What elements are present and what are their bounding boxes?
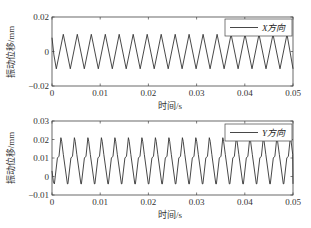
top-x-tick-label: 0.04 [237, 88, 253, 98]
bottom-y-tick-label: −0.01 [28, 190, 49, 200]
bottom-x-tick-label: 0.05 [285, 197, 301, 207]
bottom-x-tick-label: 0.04 [237, 197, 253, 207]
bottom-y-tick-label: 0.01 [33, 153, 49, 163]
bottom-series-line [52, 138, 293, 184]
bottom-legend: Y方向 [225, 124, 292, 141]
bottom-y-tick-label: 0.02 [33, 135, 49, 145]
top-x-label: 时间/s [158, 100, 183, 111]
bottom-x-tick-label: 0 [50, 197, 55, 207]
top-x-tick-label: 0.02 [141, 88, 157, 98]
bottom-x-tick-label: 0.02 [141, 197, 157, 207]
top-y-tick-label: 0 [45, 47, 50, 57]
top-x-tick-label: 0.03 [189, 88, 205, 98]
top-y-tick-label: 0.02 [33, 12, 49, 22]
vibration-figure: 00.010.020.030.040.05 0.020−0.02 时间/s 振动… [0, 0, 311, 228]
top-y-label: 振动位移/mm [5, 26, 16, 79]
bottom-y-label: 振动位移/mm [5, 132, 16, 185]
bottom-x-tick-label: 0.01 [92, 197, 108, 207]
top-y-tick-label: −0.02 [28, 81, 49, 91]
top-x-tick-label: 0.01 [92, 88, 108, 98]
top-legend-label: X方向 [261, 23, 286, 33]
bottom-plot: 00.010.020.030.040.05 0.030.020.010−0.01… [5, 116, 301, 220]
bottom-x-tick-label: 0.03 [189, 197, 205, 207]
bottom-legend-label: Y方向 [262, 128, 286, 138]
bottom-y-tick-label: 0 [45, 172, 50, 182]
bottom-y-tick-label: 0.03 [33, 116, 49, 126]
top-x-tick-label: 0.05 [285, 88, 301, 98]
top-series-line [52, 34, 293, 69]
bottom-x-label: 时间/s [158, 209, 183, 220]
top-plot: 00.010.020.030.040.05 0.020−0.02 时间/s 振动… [5, 12, 301, 111]
top-legend: X方向 [225, 19, 292, 36]
top-x-tick-label: 0 [50, 88, 55, 98]
